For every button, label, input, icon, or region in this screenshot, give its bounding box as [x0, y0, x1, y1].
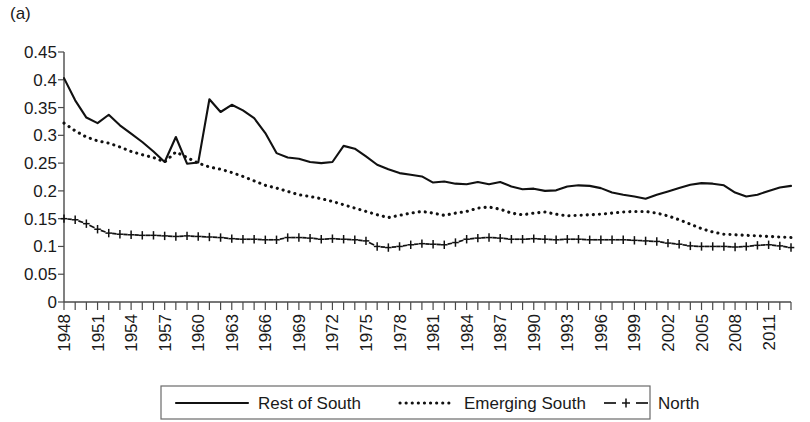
- legend-label: Emerging South: [464, 394, 586, 413]
- north-dash-segment: [280, 238, 285, 239]
- chart-legend: Rest of SouthEmerging SouthNorth: [161, 386, 700, 419]
- x-tick-label: 1957: [156, 314, 175, 352]
- y-tick-label: 0.05: [24, 265, 57, 284]
- x-tick-label: 1978: [391, 314, 410, 352]
- y-tick-label: 0.4: [33, 71, 57, 90]
- data-series-group: [61, 78, 795, 252]
- north-dash-segment: [78, 221, 83, 223]
- x-tick-label: 1975: [357, 314, 376, 352]
- series-line-rest-of-south: [64, 78, 791, 199]
- x-tick-label: 1966: [256, 314, 275, 352]
- north-dash-segment: [369, 242, 374, 245]
- x-tick-label: 1993: [558, 314, 577, 352]
- x-tick-label: 1951: [89, 314, 108, 352]
- north-dash-segment: [101, 230, 106, 232]
- x-tick-label: 2008: [726, 314, 745, 352]
- north-dash-segment: [683, 245, 687, 246]
- x-tick-label: 1963: [223, 314, 242, 352]
- north-dash-segment: [89, 225, 94, 228]
- x-tick-label: 1987: [491, 314, 510, 352]
- x-tick-label: 1981: [424, 314, 443, 352]
- x-tick-label: 1969: [290, 314, 309, 352]
- north-dash-segment: [403, 245, 407, 246]
- figure-panel-a: (a) 00.050.10.150.20.250.30.350.40.45 19…: [0, 0, 810, 422]
- x-axis-tick-marks: [64, 302, 791, 310]
- y-tick-label: 0.3: [33, 126, 57, 145]
- x-tick-label: 1984: [458, 314, 477, 352]
- y-tick-label: 0.45: [24, 43, 57, 62]
- x-tick-label: 1990: [525, 314, 544, 352]
- y-tick-label: 0.2: [33, 182, 57, 201]
- north-dash-segment: [783, 246, 787, 247]
- y-tick-label: 0.25: [24, 154, 57, 173]
- x-tick-label: 2002: [659, 314, 678, 352]
- series-line-north: [61, 214, 795, 251]
- y-axis-tick-marks: [58, 52, 64, 302]
- y-tick-label: 0.35: [24, 99, 57, 118]
- legend-label: Rest of South: [258, 394, 361, 413]
- north-dash-segment: [660, 242, 664, 243]
- north-dash-segment: [459, 240, 464, 241]
- x-tick-label: 2005: [693, 314, 712, 352]
- y-tick-label: 0: [48, 293, 57, 312]
- y-axis-tick-labels: 00.050.10.150.20.250.30.350.40.45: [24, 43, 57, 312]
- x-tick-label: 1960: [189, 314, 208, 352]
- x-tick-label: 1972: [323, 314, 342, 352]
- x-tick-label: 2011: [760, 314, 779, 351]
- x-tick-label: 1954: [122, 314, 141, 352]
- y-tick-label: 0.15: [24, 210, 57, 229]
- x-axis-tick-labels: 1948195119541957196019631966196919721975…: [55, 314, 779, 352]
- legend-label: North: [658, 394, 700, 413]
- line-chart: 00.050.10.150.20.250.30.350.40.45 194819…: [0, 0, 810, 422]
- x-tick-label: 1996: [592, 314, 611, 352]
- x-tick-label: 1999: [625, 314, 644, 352]
- legend-items: Rest of SouthEmerging SouthNorth: [176, 394, 700, 413]
- x-tick-label: 1948: [55, 314, 74, 352]
- north-dash-segment: [448, 243, 453, 244]
- y-tick-label: 0.1: [33, 237, 57, 256]
